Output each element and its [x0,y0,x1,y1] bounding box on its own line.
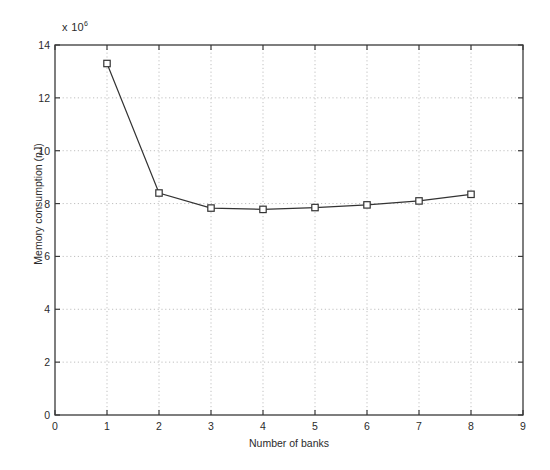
data-point-marker [104,60,110,66]
data-point-marker [208,205,214,211]
data-point-marker [416,198,422,204]
data-point-marker [156,190,162,196]
gridlines [55,45,523,415]
data-point-marker [364,202,370,208]
data-line-memory-consumption [107,64,471,210]
chart-figure: x 106 Memory consumption (nJ) Number of … [0,0,550,470]
axis-box [55,45,523,415]
data-point-marker [468,191,474,197]
data-point-marker [312,204,318,210]
plot-area [0,0,550,470]
axis-ticks [55,45,523,415]
data-point-marker [260,206,266,212]
